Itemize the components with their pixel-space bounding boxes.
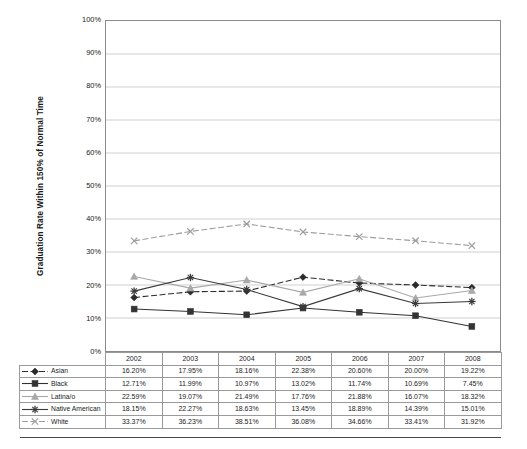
y-tick-label: 100% bbox=[59, 16, 101, 24]
data-point-marker bbox=[244, 312, 250, 318]
table-cell: 13.45% bbox=[275, 403, 332, 416]
data-point-marker bbox=[412, 300, 419, 307]
table-column-header: 2003 bbox=[162, 353, 219, 366]
series-name: White bbox=[51, 418, 68, 426]
table-cell: 11.99% bbox=[162, 378, 219, 391]
table-cell: 18.63% bbox=[219, 403, 276, 416]
data-point-marker bbox=[188, 309, 194, 315]
y-tick-label: 30% bbox=[59, 248, 101, 256]
table-cell: 19.07% bbox=[162, 390, 219, 403]
table-cell: 10.97% bbox=[219, 378, 276, 391]
table-column-header: 2005 bbox=[275, 353, 332, 366]
data-point-marker bbox=[468, 298, 475, 305]
table-cell: 16.20% bbox=[106, 365, 163, 378]
table-cell: 22.59% bbox=[106, 390, 163, 403]
y-tick-label: 60% bbox=[59, 149, 101, 157]
legend-glyph-cross-icon bbox=[22, 405, 48, 414]
y-tick-label: 40% bbox=[59, 215, 101, 223]
data-point-marker bbox=[131, 306, 137, 312]
table-cell: 12.71% bbox=[106, 378, 163, 391]
y-tick-label: 90% bbox=[59, 49, 101, 57]
table-cell: 15.01% bbox=[445, 403, 502, 416]
table-row-label-black: Black bbox=[20, 378, 106, 391]
data-point-marker bbox=[469, 324, 475, 330]
chart-figure: Graduation Rate Within 150% of Normal Ti… bbox=[0, 0, 527, 449]
table-cell: 36.08% bbox=[275, 415, 332, 428]
table-cell: 17.76% bbox=[275, 390, 332, 403]
series-name: Latina/o bbox=[51, 393, 75, 401]
table-row-label-native-american: Native American bbox=[20, 403, 106, 416]
series-white bbox=[131, 221, 475, 249]
table-cell: 10.69% bbox=[388, 378, 445, 391]
table-body: Asian16.20%17.95%18.16%22.38%20.60%20.00… bbox=[20, 365, 502, 428]
data-point-marker bbox=[299, 303, 306, 310]
y-tick-label: 70% bbox=[59, 116, 101, 124]
table-cell: 16.07% bbox=[388, 390, 445, 403]
data-point-marker bbox=[32, 368, 39, 375]
series-name: Native American bbox=[51, 405, 101, 413]
table-cell: 20.00% bbox=[388, 365, 445, 378]
table-column-header: 2007 bbox=[388, 353, 445, 366]
y-tick-label: 80% bbox=[59, 82, 101, 90]
table-row: Black12.71%11.99%10.97%13.02%11.74%10.69… bbox=[20, 378, 502, 391]
table-cell: 17.95% bbox=[162, 365, 219, 378]
table-cell: 19.22% bbox=[445, 365, 502, 378]
legend-glyph-diamond-icon bbox=[22, 367, 48, 376]
table-row: Native American18.15%22.27%18.63%13.45%1… bbox=[20, 403, 502, 416]
table-column-header: 2002 bbox=[106, 353, 163, 366]
footer-divider bbox=[20, 437, 501, 438]
data-point-marker bbox=[243, 277, 250, 283]
data-point-marker bbox=[131, 294, 138, 301]
table-cell: 38.51% bbox=[219, 415, 276, 428]
data-table-wrapper: 2002200320042005200620072008 Asian16.20%… bbox=[19, 352, 501, 429]
table-cell: 7.45% bbox=[445, 378, 502, 391]
table-cell: 21.49% bbox=[219, 390, 276, 403]
table-cell: 36.23% bbox=[162, 415, 219, 428]
table-corner-cell bbox=[20, 353, 106, 366]
table-cell: 22.27% bbox=[162, 403, 219, 416]
table-cell: 34.66% bbox=[332, 415, 389, 428]
legend-glyph-triangle-icon bbox=[22, 392, 48, 401]
table-cell: 22.38% bbox=[275, 365, 332, 378]
data-point-marker bbox=[356, 285, 363, 292]
plot-area bbox=[105, 20, 501, 352]
table-row-label-latina-o: Latina/o bbox=[20, 390, 106, 403]
table-row-label-asian: Asian bbox=[20, 365, 106, 378]
table-cell: 33.37% bbox=[106, 415, 163, 428]
table-cell: 18.32% bbox=[445, 390, 502, 403]
data-point-marker bbox=[356, 275, 363, 281]
data-point-marker bbox=[32, 381, 38, 387]
table-cell: 21.88% bbox=[332, 390, 389, 403]
table-cell: 33.41% bbox=[388, 415, 445, 428]
series-name: Black bbox=[51, 380, 68, 388]
series-line bbox=[134, 224, 472, 246]
plot-svg bbox=[106, 21, 500, 351]
y-tick-label: 50% bbox=[59, 182, 101, 190]
table-cell: 20.60% bbox=[332, 365, 389, 378]
table-row-label-white: White bbox=[20, 415, 106, 428]
data-point-marker bbox=[243, 286, 250, 293]
y-tick-label: 10% bbox=[59, 315, 101, 323]
table-row: Asian16.20%17.95%18.16%22.38%20.60%20.00… bbox=[20, 365, 502, 378]
table-cell: 14.39% bbox=[388, 403, 445, 416]
table-cell: 18.15% bbox=[106, 403, 163, 416]
table-column-header: 2004 bbox=[219, 353, 276, 366]
table-cell: 18.16% bbox=[219, 365, 276, 378]
table-row: Latina/o22.59%19.07%21.49%17.76%21.88%16… bbox=[20, 390, 502, 403]
data-point-marker bbox=[413, 313, 419, 319]
data-point-marker bbox=[356, 309, 362, 315]
legend-glyph-x-icon bbox=[22, 417, 48, 426]
table-cell: 13.02% bbox=[275, 378, 332, 391]
data-point-marker bbox=[300, 274, 307, 281]
data-point-marker bbox=[412, 282, 419, 289]
data-point-marker bbox=[469, 242, 475, 248]
data-point-marker bbox=[187, 274, 194, 281]
y-axis-title: Graduation Rate Within 150% of Normal Ti… bbox=[34, 20, 48, 352]
table-cell: 31.92% bbox=[445, 415, 502, 428]
table-cell: 11.74% bbox=[332, 378, 389, 391]
table-column-header: 2006 bbox=[332, 353, 389, 366]
y-tick-label: 20% bbox=[59, 282, 101, 290]
table-cell: 18.89% bbox=[332, 403, 389, 416]
data-point-marker bbox=[130, 287, 137, 294]
data-point-marker bbox=[131, 273, 138, 279]
